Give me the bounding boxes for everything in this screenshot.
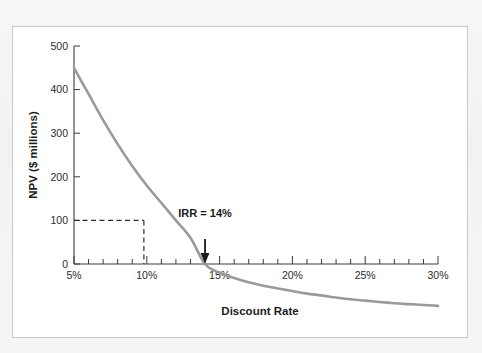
- axes: [74, 46, 438, 264]
- y-axis-tick-labels: 500 400 300 200 100 0: [50, 40, 68, 270]
- irr-annotation-label: IRR = 14%: [178, 207, 232, 219]
- npv-guide-crosshair: [74, 220, 144, 264]
- x-tick-label-5: 5%: [66, 269, 81, 281]
- x-axis-title: Discount Rate: [221, 305, 298, 317]
- x-tick-label-10: 10%: [136, 269, 157, 281]
- chart-frame: 500 400 300 200 100 0: [12, 26, 468, 338]
- npv-profile-chart: 500 400 300 200 100 0: [13, 27, 469, 339]
- x-tick-label-30: 30%: [427, 269, 448, 281]
- y-tick-label-100: 100: [50, 214, 68, 226]
- x-axis-major-ticks: [74, 256, 438, 264]
- x-axis-minor-ticks: [89, 259, 424, 264]
- y-tick-label-500: 500: [50, 40, 68, 52]
- y-axis-title: NPV ($ millions): [27, 111, 39, 199]
- y-tick-label-400: 400: [50, 83, 68, 95]
- x-axis-tick-labels: 5% 10% 15% 20% 25% 30%: [66, 269, 448, 281]
- x-tick-label-25: 25%: [355, 269, 376, 281]
- y-tick-label-300: 300: [50, 127, 68, 139]
- y-tick-label-0: 0: [62, 258, 68, 270]
- chart-screenshot: 500 400 300 200 100 0: [0, 0, 482, 353]
- y-tick-label-200: 200: [50, 171, 68, 183]
- npv-profile-curve: [74, 68, 438, 306]
- x-tick-label-20: 20%: [282, 269, 303, 281]
